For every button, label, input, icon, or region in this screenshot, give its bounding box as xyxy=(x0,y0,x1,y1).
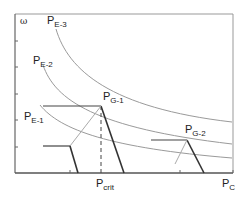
g2-thick-line xyxy=(187,140,204,173)
label-pcrit: Pcrit xyxy=(96,178,114,192)
label-pg1: PG-1 xyxy=(103,91,124,105)
label-pe1: PE-1 xyxy=(24,111,44,125)
label-pe2: PE-2 xyxy=(33,55,53,69)
x-axis-label: PC xyxy=(222,178,235,192)
x-axis-label-sub: C xyxy=(229,183,235,192)
label-pe1-sub: E-1 xyxy=(31,116,43,125)
label-pe3: PE-3 xyxy=(47,15,67,29)
e1-thick-line xyxy=(70,146,78,173)
label-pe3-sub: E-3 xyxy=(54,20,66,29)
y-axis-label: ω xyxy=(20,17,27,26)
g1-connector-line xyxy=(70,106,101,146)
label-pg2: PG-2 xyxy=(185,124,206,138)
curve-pe3 xyxy=(56,29,232,122)
label-pcrit-sub: crit xyxy=(103,183,114,192)
label-pe2-sub: E-2 xyxy=(40,60,52,69)
label-pg2-sub: G-2 xyxy=(192,129,205,138)
label-pg1-sub: G-1 xyxy=(110,96,123,105)
